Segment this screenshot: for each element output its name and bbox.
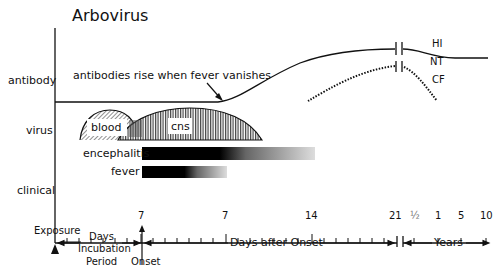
clinical-label-encephalitis: encephalitis bbox=[83, 148, 149, 159]
tick-label-day-7: 7 bbox=[222, 211, 228, 221]
tick-label-1-year: 1 bbox=[435, 211, 441, 221]
tick-label-5-years: 5 bbox=[458, 211, 464, 221]
row-label-antibody: antibody bbox=[8, 75, 56, 86]
clinical-label-fever: fever bbox=[111, 166, 139, 177]
row-label-virus: virus bbox=[26, 125, 53, 136]
exposure-label: Exposure bbox=[34, 226, 80, 236]
incubation-label-line2: Incubation bbox=[78, 244, 131, 254]
tick-label-day-14: 14 bbox=[305, 211, 318, 221]
curve-label-cf: CF bbox=[432, 75, 445, 85]
onset-label: Onset bbox=[131, 257, 161, 267]
row-label-clinical: clinical bbox=[17, 185, 55, 196]
tick-label-half-year: ½ bbox=[410, 211, 420, 221]
curve-label-nt: NT bbox=[430, 57, 444, 67]
tick-label-10-years: 10 bbox=[480, 211, 493, 221]
tick-label-day-21: 21 bbox=[389, 211, 402, 221]
incubation-label-line1: Days bbox=[89, 232, 114, 242]
days-after-onset-label: Days after Onset bbox=[230, 237, 323, 248]
curve-label-hi: HI bbox=[432, 39, 442, 49]
tick-label-onset-7: 7 bbox=[138, 211, 144, 221]
virus-phase-blood: blood bbox=[91, 122, 121, 133]
antibody-annotation: antibodies rise when fever vanishes bbox=[73, 70, 271, 81]
virus-phase-cns: cns bbox=[171, 121, 190, 132]
years-label: Years bbox=[434, 237, 463, 248]
incubation-label-line3: Period bbox=[86, 257, 117, 267]
diagram-title: Arbovirus bbox=[72, 8, 148, 24]
